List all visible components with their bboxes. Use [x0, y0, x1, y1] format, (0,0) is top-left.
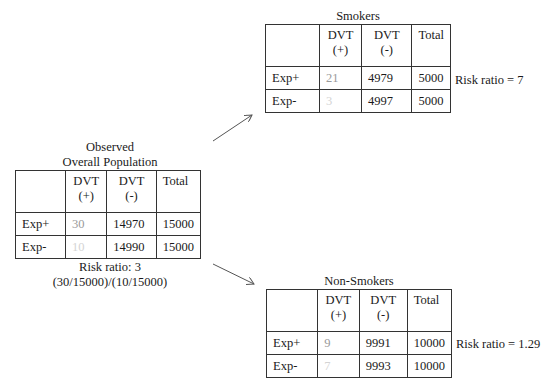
header-dvt-neg: DVT(-) [359, 290, 407, 332]
cell-dvt-pos: 30 [66, 213, 107, 236]
row-label: Exp- [266, 90, 320, 113]
header-dvt-neg: DVT(-) [362, 25, 412, 67]
cell-dvt-pos: 3 [319, 90, 361, 113]
table-header-row: DVT(+) DVT(-) Total [267, 290, 452, 332]
header-total: Total [156, 171, 200, 213]
non-smokers-risk-ratio: Risk ratio = 1.29 [456, 337, 540, 352]
non-smokers-title: Non-Smokers [266, 274, 452, 289]
cell-total: 10000 [407, 355, 451, 378]
overall-title: Observed Overall Population [15, 140, 205, 170]
header-dvt-pos: DVT(+) [66, 171, 107, 213]
cell-total: 5000 [412, 90, 451, 113]
table-row: Exp+ 30 14970 15000 [16, 213, 201, 236]
cell-dvt-pos: 10 [66, 236, 107, 259]
cell-dvt-neg: 9993 [359, 355, 407, 378]
overall-table: DVT(+) DVT(-) Total Exp+ 30 14970 15000 … [15, 170, 201, 259]
cell-total: 10000 [407, 332, 451, 355]
cell-total: 15000 [156, 213, 200, 236]
arrow-to-smokers [213, 115, 252, 141]
table-header-row: DVT(+) DVT(-) Total [266, 25, 451, 67]
header-dvt-neg: DVT(-) [107, 171, 156, 213]
row-label: Exp+ [16, 213, 66, 236]
table-row: Exp- 10 14990 15000 [16, 236, 201, 259]
row-label: Exp- [267, 355, 318, 378]
table-header-row: DVT(+) DVT(-) Total [16, 171, 201, 213]
arrow-to-non-smokers [213, 264, 254, 284]
overall-risk-ratio: Risk ratio: 3 (30/15000)/(10/15000) [15, 260, 205, 290]
cell-dvt-neg: 14970 [107, 213, 156, 236]
header-blank [267, 290, 318, 332]
row-label: Exp+ [267, 332, 318, 355]
cell-dvt-pos: 9 [318, 332, 360, 355]
smokers-table: DVT(+) DVT(-) Total Exp+ 21 4979 5000 Ex… [265, 24, 451, 113]
cell-dvt-neg: 4997 [362, 90, 412, 113]
table-row: Exp+ 9 9991 10000 [267, 332, 452, 355]
smokers-title: Smokers [265, 9, 451, 24]
table-row: Exp- 3 4997 5000 [266, 90, 451, 113]
cell-dvt-neg: 9991 [359, 332, 407, 355]
cell-total: 5000 [412, 67, 451, 90]
cell-dvt-pos: 21 [319, 67, 361, 90]
header-blank [16, 171, 66, 213]
header-dvt-pos: DVT(+) [319, 25, 361, 67]
header-dvt-pos: DVT(+) [318, 290, 360, 332]
header-total: Total [407, 290, 451, 332]
table-row: Exp- 7 9993 10000 [267, 355, 452, 378]
row-label: Exp+ [266, 67, 320, 90]
header-total: Total [412, 25, 451, 67]
non-smokers-table: DVT(+) DVT(-) Total Exp+ 9 9991 10000 Ex… [266, 289, 452, 378]
header-blank [266, 25, 320, 67]
table-row: Exp+ 21 4979 5000 [266, 67, 451, 90]
smokers-risk-ratio: Risk ratio = 7 [455, 73, 524, 88]
cell-dvt-neg: 14990 [107, 236, 156, 259]
cell-total: 15000 [156, 236, 200, 259]
cell-dvt-pos: 7 [318, 355, 360, 378]
row-label: Exp- [16, 236, 66, 259]
cell-dvt-neg: 4979 [362, 67, 412, 90]
